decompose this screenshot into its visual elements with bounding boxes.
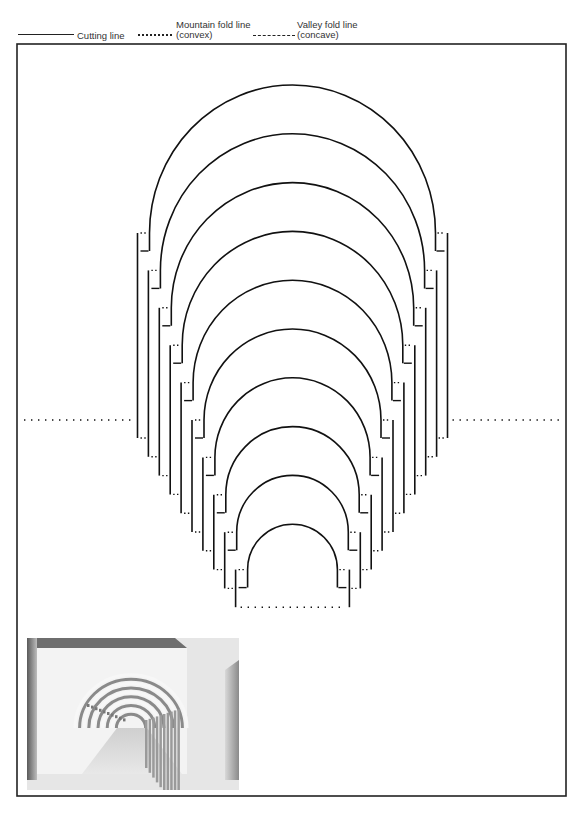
photo-arch-leg-left: [95, 707, 98, 710]
fold-lines: [24, 233, 562, 607]
photo-arch-leg-right: [167, 713, 170, 790]
tunnel-photo-illustration: [27, 638, 239, 790]
photo-arch-leg-left: [99, 709, 102, 712]
photo-arch-leg-left: [123, 718, 126, 721]
arch-pattern: [138, 85, 448, 607]
photo-arch-leg-right: [145, 720, 148, 768]
photo-arch-leg-right: [170, 712, 173, 790]
arch-cut-line: [150, 85, 436, 251]
arch-cut-line: [160, 134, 424, 289]
arch-cut-line: [237, 475, 349, 550]
photo-arch-leg-left: [107, 712, 110, 715]
arch-cut-line: [171, 183, 413, 326]
photo-arch-leg-right: [174, 710, 177, 790]
arch-cut-line: [193, 280, 392, 400]
photo-arch-leg-left: [111, 714, 114, 717]
photo-arch-leg-left: [115, 715, 118, 718]
photo-arch-leg-right: [149, 719, 152, 773]
photo-arch-leg-right: [177, 709, 180, 790]
photo-arch-leg-right: [156, 716, 159, 782]
photo-arch-leg-left: [103, 710, 106, 713]
arch-cut-line: [204, 329, 381, 438]
photo-arch-leg-right: [163, 714, 166, 790]
photo-arch-leg-left: [119, 717, 122, 720]
arch-cut-line: [248, 524, 338, 587]
arch-cut-line: [182, 231, 403, 363]
photo-arch-leg-right: [159, 715, 162, 787]
photo-arch-leg-right: [152, 718, 155, 778]
photo-arch-leg-left: [91, 706, 94, 709]
photo-arch-leg-left: [87, 704, 90, 707]
model-photo: [27, 638, 239, 790]
